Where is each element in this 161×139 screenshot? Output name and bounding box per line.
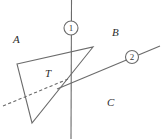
line-badge-2: 2 <box>126 51 139 64</box>
line-badge-1: 1 <box>64 21 78 35</box>
line-badge-2-label: 2 <box>130 52 135 62</box>
region-label-C: C <box>107 97 114 108</box>
region-label-B: B <box>112 27 119 38</box>
line-2 <box>57 46 160 89</box>
geometry-figure: 1 2 A B C T <box>0 0 161 139</box>
region-label-T: T <box>45 68 51 79</box>
triangle-T <box>17 47 93 123</box>
region-label-A: A <box>13 34 20 45</box>
dashed-line <box>3 79 68 106</box>
line-badge-1-label: 1 <box>69 23 74 33</box>
figure-canvas: 1 2 <box>0 0 161 139</box>
